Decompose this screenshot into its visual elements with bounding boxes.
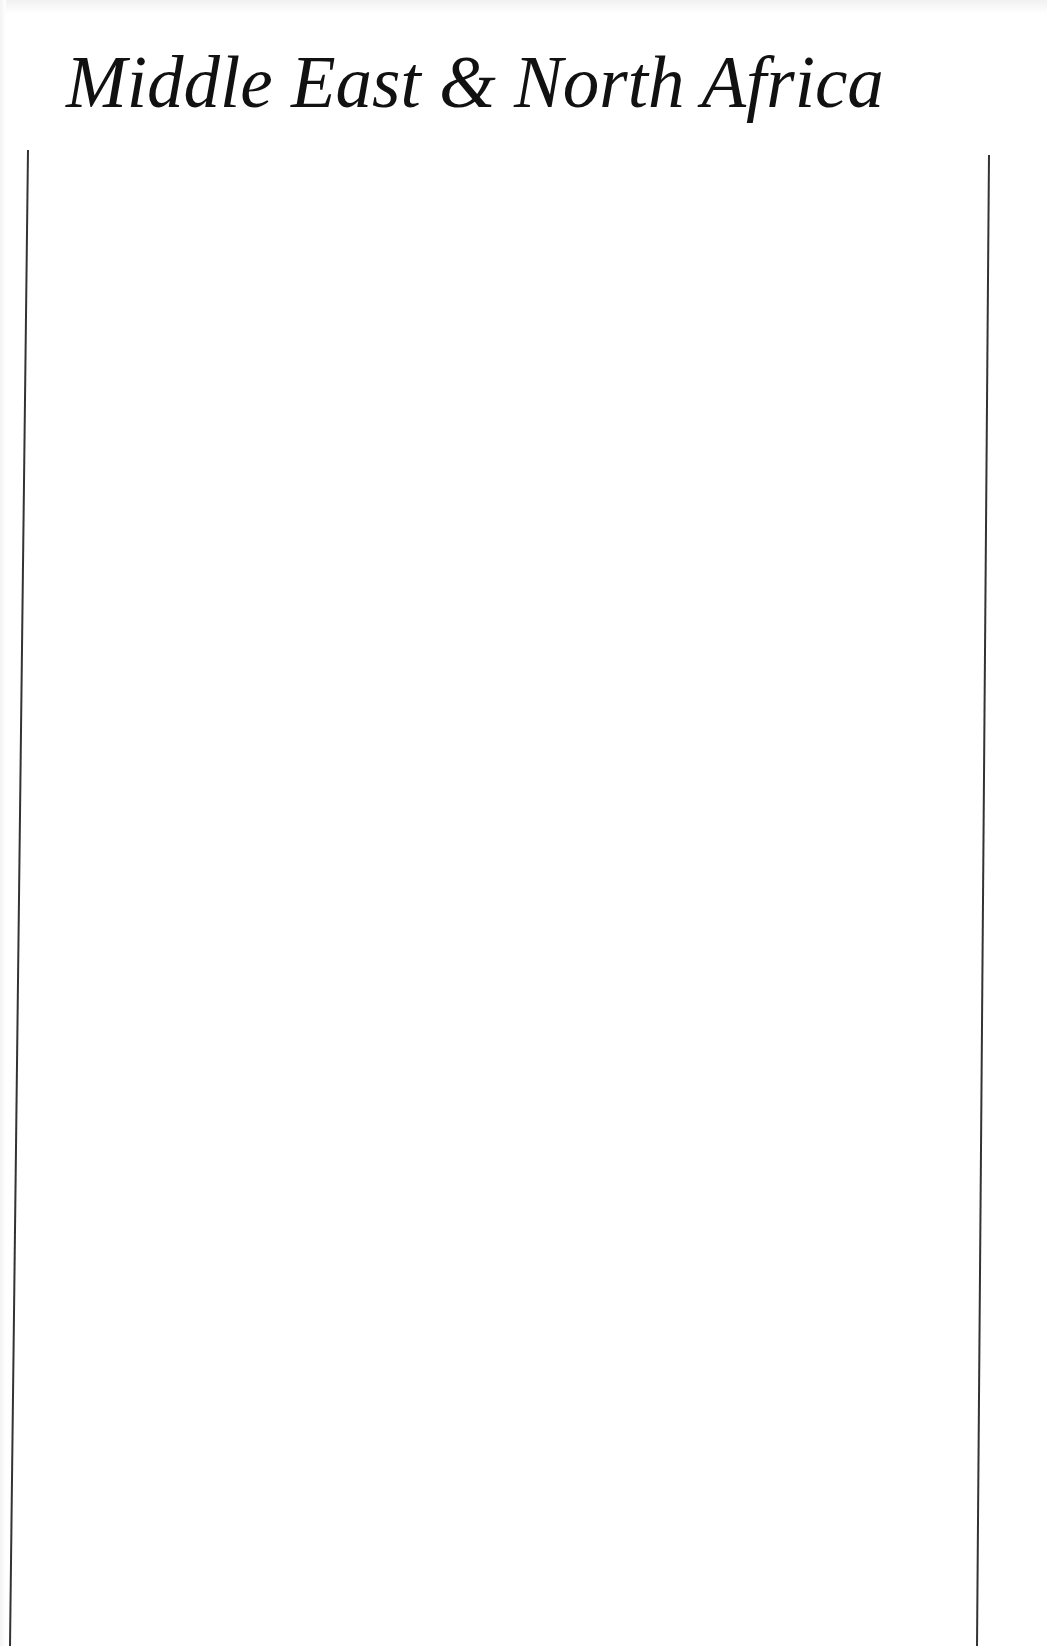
page-frame <box>0 0 1047 1646</box>
left-vertical-rule <box>10 150 28 1646</box>
right-vertical-rule <box>977 155 989 1646</box>
